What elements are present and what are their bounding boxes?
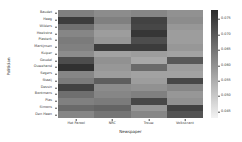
- x-axis-tick-mark: [185, 119, 186, 121]
- heatmap-cell: [58, 44, 94, 51]
- heatmap-cell: [167, 51, 203, 58]
- heatmap-cell: [94, 30, 130, 37]
- heatmap-cell: [167, 64, 203, 71]
- y-axis-tick-label: Den Haan: [35, 113, 52, 116]
- heatmap-cell: [131, 37, 167, 44]
- y-axis-tick-label: Hoekstra: [37, 32, 52, 35]
- y-axis-tick-mark: [55, 87, 57, 88]
- colorbar-tick-mark: [218, 112, 220, 113]
- colorbar-tick-mark: [218, 50, 220, 51]
- x-axis-tick-label: Volkskrant: [176, 122, 194, 125]
- heatmap-cell: [131, 71, 167, 78]
- heatmap-cell: [94, 105, 130, 112]
- heatmap-cell-grid: [58, 10, 203, 118]
- x-axis-tick-mark: [148, 119, 149, 121]
- heatmap-cell: [131, 98, 167, 105]
- heatmap-cell: [131, 17, 167, 24]
- y-axis-tick-mark: [55, 13, 57, 14]
- colorbar-gradient: [211, 10, 218, 118]
- heatmap-cell: [58, 57, 94, 64]
- y-axis-tick-mark: [55, 47, 57, 48]
- heatmap-cell: [58, 78, 94, 85]
- y-axis-tick-label: Wilders: [39, 25, 52, 28]
- heatmap-cell: [167, 10, 203, 17]
- y-axis-tick-mark: [55, 101, 57, 102]
- heatmap-cell: [131, 44, 167, 51]
- heatmap-cell: [94, 24, 130, 31]
- colorbar-tick-label: 0.065: [221, 48, 231, 51]
- heatmap-cell: [131, 24, 167, 31]
- y-axis-tick-label: Kuiper: [41, 52, 52, 55]
- heatmap-cell: [94, 57, 130, 64]
- y-axis-tick-label: Dessin: [41, 86, 52, 89]
- heatmap-cell: [58, 71, 94, 78]
- y-axis-tick-mark: [55, 27, 57, 28]
- heatmap-cell: [94, 51, 130, 58]
- heatmap-cell: [131, 64, 167, 71]
- heatmap-cell: [167, 37, 203, 44]
- y-axis-tick-label: Simons: [40, 106, 52, 109]
- y-axis-tick-label: Haag: [43, 18, 52, 21]
- heatmap-cell: [131, 78, 167, 85]
- y-axis-tick-mark: [55, 114, 57, 115]
- y-axis-tick-label: Segers: [40, 72, 52, 75]
- heatmap-cell: [58, 84, 94, 91]
- y-axis-tick-mark: [55, 20, 57, 21]
- heatmap-cell: [58, 10, 94, 17]
- colorbar-tick-mark: [218, 65, 220, 66]
- heatmap-cell: [167, 17, 203, 24]
- heatmap-cell: [131, 84, 167, 91]
- y-axis-tick-label: Staaij: [42, 79, 52, 82]
- heatmap-cell: [167, 91, 203, 98]
- heatmap-cell: [94, 10, 130, 17]
- colorbar-tick-label: 0.060: [221, 64, 231, 67]
- heatmap-cell: [58, 111, 94, 118]
- heatmap-cell: [167, 71, 203, 78]
- y-axis-tick-label: Plasterk: [38, 39, 52, 42]
- heatmap-cell: [167, 105, 203, 112]
- heatmap-cell: [94, 84, 130, 91]
- heatmap-cell: [131, 91, 167, 98]
- x-axis-tick-mark: [76, 119, 77, 121]
- heatmap-cell: [167, 24, 203, 31]
- x-axis-tick-labels: Het ParoolNRCTrouwVolkskrant: [58, 119, 203, 128]
- heatmap-cell: [94, 17, 130, 24]
- y-axis-tick-label: Goudel: [40, 59, 52, 62]
- heatmap-cell: [94, 91, 130, 98]
- y-axis-tick-label: Baudet: [40, 12, 52, 15]
- y-axis-tick-label: Ouwehand: [34, 66, 52, 69]
- heatmap-cell: [94, 64, 130, 71]
- heatmap-cell: [131, 57, 167, 64]
- colorbar-tick-mark: [218, 96, 220, 97]
- heatmap-cell: [94, 98, 130, 105]
- heatmap-cell: [131, 105, 167, 112]
- heatmap-cell: [58, 91, 94, 98]
- heatmap-cell: [167, 30, 203, 37]
- heatmap-cell: [167, 57, 203, 64]
- heatmap-cell: [58, 24, 94, 31]
- colorbar-tick-mark: [218, 19, 220, 20]
- heatmap-cell: [94, 44, 130, 51]
- heatmap-cell: [58, 98, 94, 105]
- colorbar-tick-label: 0.050: [221, 95, 231, 98]
- heatmap-cell: [58, 64, 94, 71]
- colorbar-tick-label: 0.070: [221, 33, 231, 36]
- colorbar-tick-mark: [218, 81, 220, 82]
- y-axis-tick-mark: [55, 108, 57, 109]
- y-axis-tick-mark: [55, 33, 57, 34]
- x-axis-tick-label: NRC: [109, 122, 116, 125]
- x-axis-title: Newspaper: [58, 129, 203, 134]
- heatmap-cell: [131, 30, 167, 37]
- y-axis-tick-mark: [55, 54, 57, 55]
- y-axis-tick-label: Plas: [45, 99, 52, 102]
- heatmap-cell: [131, 111, 167, 118]
- x-axis-tick-label: Het Parool: [67, 122, 84, 125]
- heatmap-cell: [167, 78, 203, 85]
- x-axis-tick-label: Trouw: [144, 122, 154, 125]
- heatmap-plot-area: [58, 10, 203, 118]
- heatmap-cell: [94, 37, 130, 44]
- y-axis-tick-mark: [55, 67, 57, 68]
- colorbar-tick-label: 0.075: [221, 18, 231, 21]
- colorbar-tick-label: 0.055: [221, 79, 231, 82]
- heatmap-cell: [94, 111, 130, 118]
